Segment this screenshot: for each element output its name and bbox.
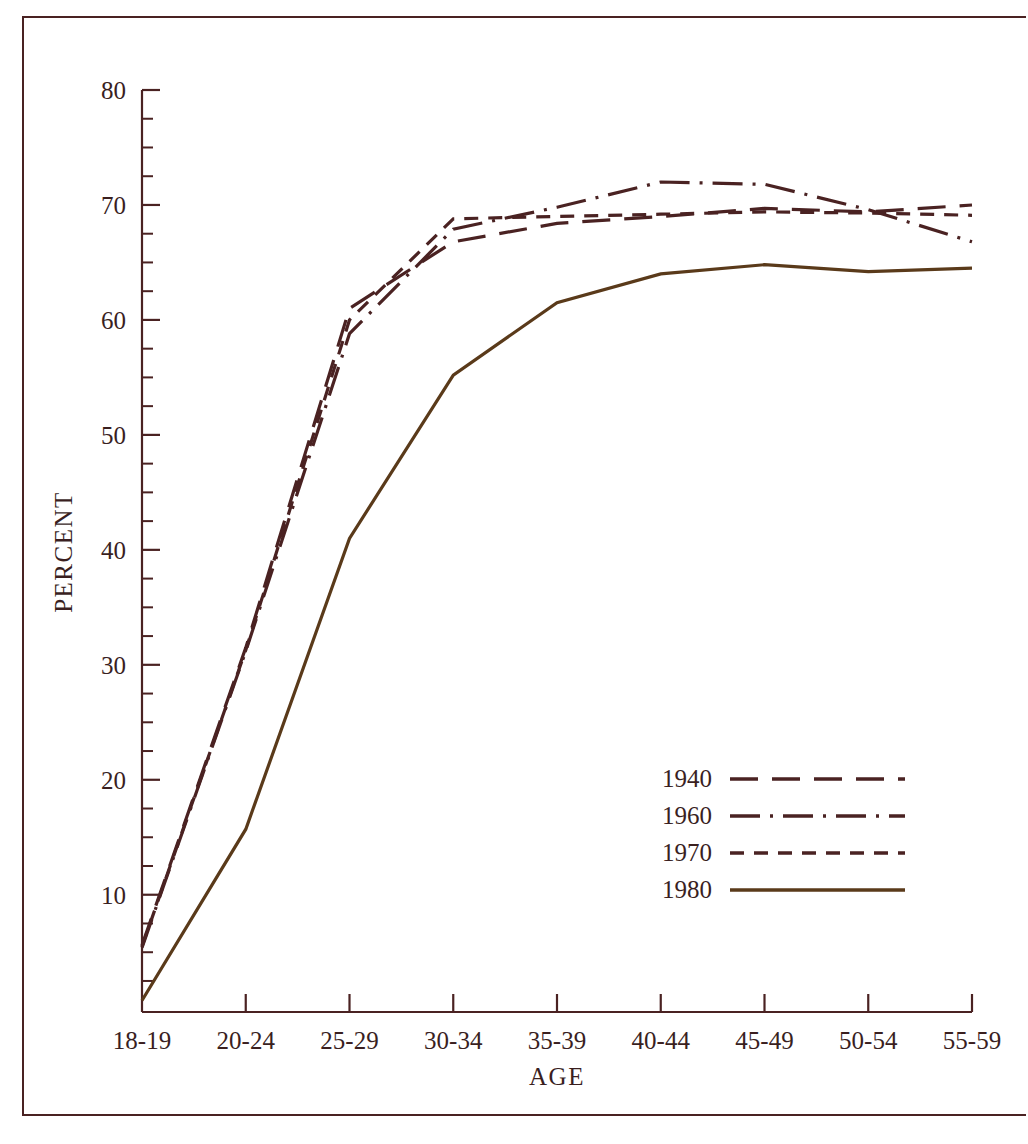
series-line-1940 <box>142 205 972 945</box>
x-tick-label: 30-34 <box>424 1027 483 1054</box>
y-axis-ticks <box>142 90 160 981</box>
y-tick-label: 20 <box>101 767 126 794</box>
x-tick-label: 45-49 <box>735 1027 793 1054</box>
y-tick-label: 40 <box>101 537 126 564</box>
legend-label-1970: 1970 <box>662 839 712 866</box>
x-tick-label: 18-19 <box>113 1027 171 1054</box>
x-tick-label: 40-44 <box>632 1027 691 1054</box>
y-axis-tick-labels: 1020304050607080 <box>101 77 126 909</box>
legend-label-1960: 1960 <box>662 802 712 829</box>
x-axis-title: AGE <box>529 1063 585 1090</box>
x-axis-tick-labels: 18-1920-2425-2930-3435-3940-4445-4950-54… <box>113 1027 1001 1054</box>
y-axis-title: PERCENT <box>50 491 77 613</box>
series-line-1970 <box>142 212 972 947</box>
line-chart: 1020304050607080 18-1920-2425-2930-3435-… <box>0 0 1028 1144</box>
y-tick-label: 10 <box>101 882 126 909</box>
x-axis-ticks <box>246 994 972 1012</box>
x-tick-label: 20-24 <box>217 1027 276 1054</box>
x-tick-label: 25-29 <box>320 1027 378 1054</box>
y-tick-label: 60 <box>101 307 126 334</box>
x-tick-label: 35-39 <box>528 1027 586 1054</box>
y-tick-label: 30 <box>101 652 126 679</box>
x-tick-label: 50-54 <box>839 1027 898 1054</box>
figure-container: 1020304050607080 18-1920-2425-2930-3435-… <box>0 0 1028 1144</box>
chart-legend: 1940196019701980 <box>662 765 905 903</box>
series-line-1960 <box>142 182 972 948</box>
y-tick-label: 50 <box>101 422 126 449</box>
series-lines <box>142 182 972 1001</box>
legend-label-1940: 1940 <box>662 765 712 792</box>
legend-label-1980: 1980 <box>662 876 712 903</box>
x-tick-label: 55-59 <box>943 1027 1001 1054</box>
y-tick-label: 80 <box>101 77 126 104</box>
y-tick-label: 70 <box>101 192 126 219</box>
